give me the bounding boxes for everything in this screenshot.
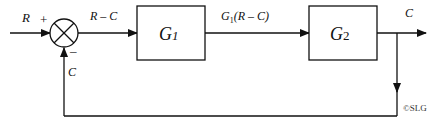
input-label: R	[21, 10, 30, 25]
error-label: R – C	[89, 9, 118, 23]
plus-sign: +	[40, 12, 47, 27]
intermediate-label: G1(R – C)	[221, 9, 269, 25]
copyright-text: ©SLG	[403, 103, 427, 113]
minus-sign: –	[69, 43, 77, 58]
block-diagram: R + – R – C G1 G1(R – C) G2 C C ©SLG	[0, 0, 435, 122]
output-label: C	[405, 6, 414, 20]
feedback-label: C	[68, 65, 77, 79]
